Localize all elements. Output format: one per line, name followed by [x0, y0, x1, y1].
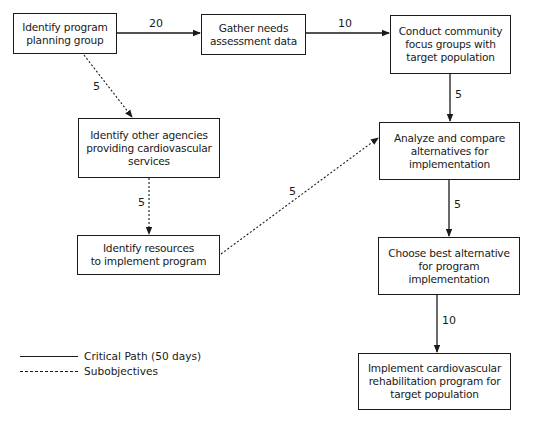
node-label: Conduct community focus groups with targ…	[399, 25, 503, 64]
legend-subobjectives: Subobjectives	[20, 365, 158, 377]
node-label: Implement cardiovascular rehabilitation …	[368, 362, 501, 401]
edge-n5-n6	[221, 138, 378, 254]
solid-line-swatch	[20, 356, 78, 357]
edge-label-n4-n5: 5	[138, 197, 145, 209]
node-identify-resources: Identify resources to implement program	[77, 235, 220, 275]
edge-label-n3-n6: 5	[455, 89, 462, 101]
legend-critical-path: Critical Path (50 days)	[20, 350, 201, 362]
edge-label-n5-n6: 5	[289, 186, 296, 198]
edge-n1-n4	[84, 55, 132, 117]
edge-label-n7-n8: 10	[442, 315, 456, 327]
node-label: Choose best alternative for program impl…	[388, 247, 510, 286]
node-choose-best-alternative: Choose best alternative for program impl…	[378, 237, 520, 295]
node-analyze-alternatives: Analyze and compare alternatives for imp…	[379, 122, 520, 180]
legend-label: Critical Path (50 days)	[84, 350, 201, 362]
node-label: Analyze and compare alternatives for imp…	[394, 132, 505, 171]
edge-label-n1-n2: 20	[149, 18, 163, 30]
node-label: Gather needs assessment data	[210, 22, 297, 48]
edge-label-n2-n3: 10	[338, 18, 352, 30]
node-identify-planning-group: Identify program planning group	[13, 13, 117, 54]
node-label: Identify program planning group	[22, 21, 107, 47]
edge-label-n1-n4: 5	[93, 81, 100, 93]
node-label: Identify other agencies providing cardio…	[86, 129, 211, 168]
node-label: Identify resources to implement program	[91, 242, 207, 268]
dotted-line-swatch	[20, 371, 78, 372]
legend-label: Subobjectives	[84, 365, 158, 377]
node-implement-program: Implement cardiovascular rehabilitation …	[358, 353, 511, 410]
node-gather-needs-data: Gather needs assessment data	[201, 14, 306, 55]
node-conduct-focus-groups: Conduct community focus groups with targ…	[390, 15, 511, 74]
edge-label-n6-n7: 5	[454, 199, 461, 211]
node-identify-other-agencies: Identify other agencies providing cardio…	[78, 118, 220, 178]
